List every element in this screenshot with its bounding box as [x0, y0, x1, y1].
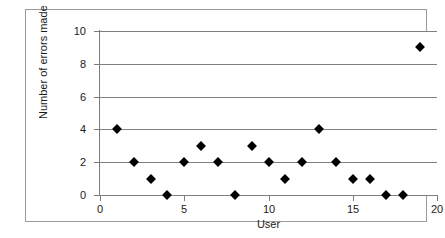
y-tick-mark — [94, 97, 99, 98]
x-tick-mark — [269, 196, 270, 201]
gridline — [100, 97, 437, 98]
data-point — [381, 190, 391, 200]
x-tick-label: 5 — [164, 204, 204, 215]
y-tick-label: 6 — [44, 92, 86, 103]
x-tick-label: 15 — [333, 204, 373, 215]
gridline — [100, 64, 437, 65]
x-tick-label: 10 — [249, 204, 289, 215]
y-tick-mark — [94, 129, 99, 130]
data-point — [331, 157, 341, 167]
data-point — [129, 157, 139, 167]
data-point — [398, 190, 408, 200]
y-tick-mark — [94, 64, 99, 65]
y-tick-label: 10 — [44, 26, 86, 37]
y-tick-mark — [94, 162, 99, 163]
data-point — [230, 190, 240, 200]
y-tick-label: 4 — [44, 124, 86, 135]
data-point — [162, 190, 172, 200]
y-tick-label: 0 — [44, 190, 86, 201]
x-tick-mark — [184, 196, 185, 201]
data-point — [196, 141, 206, 151]
y-tick-label: 8 — [44, 59, 86, 70]
data-point — [365, 174, 375, 184]
data-point — [146, 174, 156, 184]
chart-frame: Number of errors made 0246810 05101520 U… — [25, 9, 427, 222]
plot-area — [100, 31, 437, 195]
data-point — [179, 157, 189, 167]
data-point — [348, 174, 358, 184]
data-point — [415, 42, 425, 52]
x-tick-label: 20 — [417, 204, 445, 215]
data-point — [264, 157, 274, 167]
data-point — [247, 141, 257, 151]
data-point — [112, 124, 122, 134]
x-tick-mark — [437, 196, 438, 201]
data-point — [213, 157, 223, 167]
y-tick-mark — [94, 195, 99, 196]
gridline — [100, 129, 437, 130]
data-point — [314, 124, 324, 134]
x-tick-mark — [100, 196, 101, 201]
x-tick-mark — [353, 196, 354, 201]
data-point — [297, 157, 307, 167]
y-tick-label: 2 — [44, 157, 86, 168]
y-tick-mark — [94, 31, 99, 32]
gridline — [100, 31, 437, 32]
x-axis-title: User — [100, 218, 437, 230]
data-point — [280, 174, 290, 184]
x-tick-label: 0 — [80, 204, 120, 215]
